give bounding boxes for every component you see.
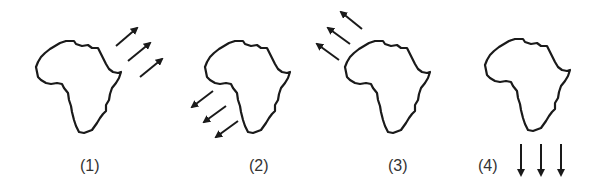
- africa-outline: [345, 41, 430, 133]
- africa-outline: [485, 39, 570, 131]
- panel-label-3: (3): [388, 157, 408, 175]
- panel-label-2: (2): [249, 157, 269, 175]
- arrows-north-east-icon: [116, 28, 162, 77]
- arrows-south-icon: [521, 144, 561, 175]
- panel-label-4: (4): [478, 157, 498, 175]
- africa-outline: [36, 41, 121, 133]
- panel-label-1: (1): [80, 157, 100, 175]
- arrows-south-west-icon: [192, 91, 238, 137]
- panel-4: [485, 39, 570, 175]
- panel-3: [317, 12, 430, 133]
- africa-outline: [205, 41, 290, 133]
- panel-2: [192, 41, 290, 137]
- panel-1: [36, 28, 162, 133]
